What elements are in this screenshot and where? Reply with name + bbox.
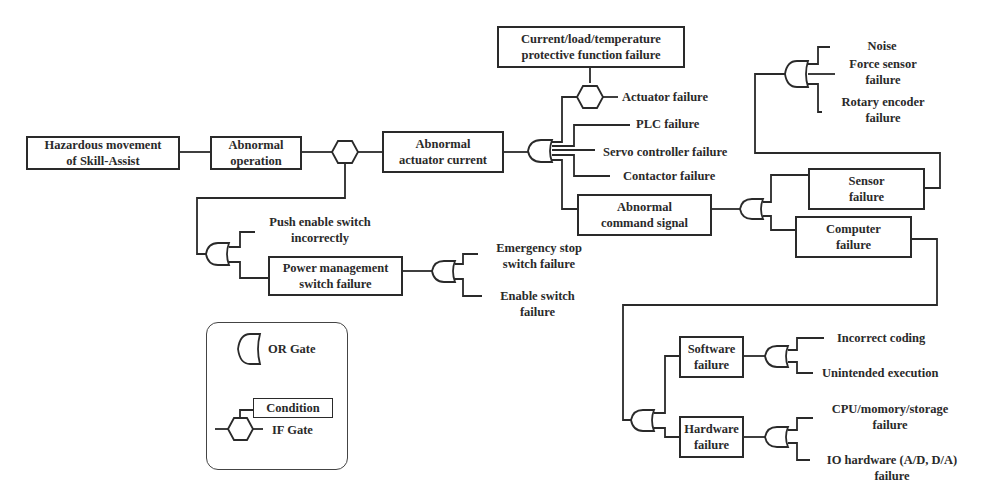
sensor-failure-box: Sensorfailure [808,168,925,210]
abnormal-actuator-current-box: Abnormalactuator current [382,131,504,173]
hardware-failure-box: Hardwarefailure [679,416,744,458]
computer-failure-box: Computerfailure [795,216,912,258]
hazard-top-event-box: Hazardous movementof Skill-Assist [26,136,180,170]
abnormal-command-signal-box: Abnormalcommand signal [577,194,712,236]
emergency-stop-switch-label: Emergency stopswitch failure [484,240,594,272]
or-gate-enable [206,243,229,265]
or-gate-computer [631,410,654,431]
or-gate-command-signal [740,199,763,219]
fault-tree-diagram: Hazardous movementof Skill-Assist Abnorm… [0,0,992,498]
or-gate-actuator-current [528,140,552,162]
or-gate-hardware [765,427,788,447]
io-hardware-failure-label: IO hardware (A/D, D/A)failure [814,452,970,484]
or-gate-software [765,346,788,367]
if-gate-main [332,141,358,163]
if-gate-actuator [577,86,603,108]
push-enable-switch-label: Push enable switchincorrectly [255,214,385,246]
cpu-memory-storage-label: CPU/momory/storagefailure [818,401,962,433]
unintended-execution-label: Unintended execution [822,365,938,381]
contactor-failure-label: Contactor failure [623,168,715,184]
power-management-switch-box: Power managementswitch failure [268,256,403,296]
noise-label: Noise [862,38,902,54]
legend-if-gate-label: IF Gate [272,422,313,438]
or-gate-sensor [785,61,808,87]
actuator-failure-label: Actuator failure [622,89,708,105]
legend-condition-box: Condition [253,398,333,418]
protective-function-condition-box: Current/load/temperatureprotective funct… [497,26,685,68]
incorrect-coding-label: Incorrect coding [837,330,925,346]
servo-controller-failure-label: Servo controller failure [603,144,727,160]
force-sensor-failure-label: Force sensorfailure [835,56,931,88]
legend-or-gate-label: OR Gate [268,341,316,357]
plc-failure-label: PLC failure [636,116,699,132]
or-gate-power-management [432,261,455,282]
enable-switch-failure-label: Enable switchfailure [490,288,585,320]
software-failure-box: Softwarefailure [679,336,744,378]
rotary-encoder-failure-label: Rotary encoderfailure [830,94,936,126]
abnormal-operation-box: Abnormaloperation [210,136,302,170]
